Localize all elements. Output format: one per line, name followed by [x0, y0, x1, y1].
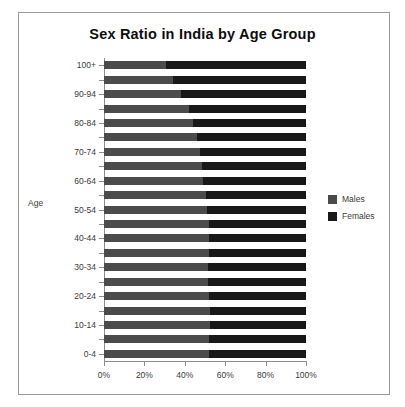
bar-row [104, 119, 306, 127]
x-axis-label: 20% [136, 370, 153, 380]
legend-swatch-icon [328, 195, 337, 204]
x-axis-label: 0% [98, 370, 110, 380]
bar-row [104, 335, 306, 343]
x-axis-tick [144, 361, 145, 366]
bar-segment-males [104, 90, 181, 98]
y-axis-tick [99, 94, 104, 95]
y-axis-tick [99, 354, 104, 355]
bar-segment-females [200, 148, 306, 156]
bar-row [104, 292, 306, 300]
bar-row [104, 350, 306, 358]
bar-row [104, 133, 306, 141]
bar-segment-females [209, 234, 306, 242]
bar-row [104, 249, 306, 257]
bar-row [104, 162, 306, 170]
bar-segment-males [104, 278, 208, 286]
x-axis-tick [104, 361, 105, 366]
legend-label: Males [342, 194, 365, 204]
x-axis-tick [185, 361, 186, 366]
bar-segment-males [104, 307, 210, 315]
bar-segment-females [166, 61, 306, 69]
y-axis-label: 50-54 [74, 205, 96, 215]
x-axis-label: 60% [217, 370, 234, 380]
bar-segment-females [208, 278, 306, 286]
bar-segment-males [104, 206, 207, 214]
bar-segment-females [208, 263, 306, 271]
bar-segment-males [104, 76, 173, 84]
x-axis-label: 100% [295, 370, 317, 380]
bar-row [104, 263, 306, 271]
bar-segment-males [104, 234, 209, 242]
y-axis-label: 70-74 [74, 147, 96, 157]
bar-segment-females [197, 133, 306, 141]
bar-segment-males [104, 133, 197, 141]
bar-segment-females [193, 119, 306, 127]
bar-row [104, 307, 306, 315]
bar-row [104, 76, 306, 84]
chart-title: Sex Ratio in India by Age Group [0, 26, 405, 42]
y-axis-label: 0-4 [84, 349, 96, 359]
y-axis-tick [99, 339, 104, 340]
bar-segment-females [209, 220, 306, 228]
x-axis-tick [266, 361, 267, 366]
y-axis-label: 80-84 [74, 118, 96, 128]
bar-segment-males [104, 162, 202, 170]
bar-segment-males [104, 263, 208, 271]
bar-segment-males [104, 292, 209, 300]
y-axis-tick [99, 267, 104, 268]
bar-segment-females [210, 321, 306, 329]
y-axis-tick [99, 137, 104, 138]
bar-segment-males [104, 105, 189, 113]
bar-row [104, 90, 306, 98]
bar-row [104, 206, 306, 214]
y-axis-tick [99, 325, 104, 326]
bar-segment-males [104, 249, 209, 257]
bar-row [104, 234, 306, 242]
legend-item[interactable]: Males [328, 194, 388, 204]
y-axis-tick [99, 282, 104, 283]
y-axis-tick [99, 109, 104, 110]
y-axis-tick [99, 296, 104, 297]
bar-row [104, 105, 306, 113]
y-axis-tick [99, 181, 104, 182]
y-axis-label: 40-44 [74, 233, 96, 243]
bar-row [104, 220, 306, 228]
bar-row [104, 191, 306, 199]
bar-segment-males [104, 220, 209, 228]
bar-segment-females [209, 292, 306, 300]
x-axis-label: 80% [257, 370, 274, 380]
y-axis-tick [99, 152, 104, 153]
bar-segment-females [207, 206, 306, 214]
y-axis-tick [99, 311, 104, 312]
y-axis-label: 60-64 [74, 176, 96, 186]
bar-segment-females [209, 249, 306, 257]
x-axis-line [104, 361, 306, 362]
legend-item[interactable]: Females [328, 211, 388, 221]
bar-segment-females [203, 177, 306, 185]
bar-segment-males [104, 321, 210, 329]
y-axis-tick [99, 123, 104, 124]
legend-label: Females [342, 211, 375, 221]
chart-screenshot: Sex Ratio in India by Age Group Age Male… [0, 0, 405, 407]
y-axis-title: Age [28, 198, 43, 208]
bar-segment-males [104, 119, 193, 127]
y-axis-tick [99, 65, 104, 66]
bar-segment-males [104, 61, 166, 69]
bar-segment-males [104, 350, 209, 358]
y-axis-tick [99, 166, 104, 167]
x-axis-tick [306, 361, 307, 366]
y-axis-label: 20-24 [74, 291, 96, 301]
bar-segment-females [209, 335, 306, 343]
bar-segment-females [210, 307, 306, 315]
bar-segment-females [202, 162, 306, 170]
y-axis-tick [99, 253, 104, 254]
y-axis-label: 10-14 [74, 320, 96, 330]
y-axis-tick [99, 210, 104, 211]
bar-segment-females [189, 105, 306, 113]
y-axis-label: 100+ [77, 60, 96, 70]
bar-row [104, 278, 306, 286]
x-axis-tick [225, 361, 226, 366]
plot-area [104, 58, 306, 361]
bar-row [104, 177, 306, 185]
y-axis-tick [99, 80, 104, 81]
